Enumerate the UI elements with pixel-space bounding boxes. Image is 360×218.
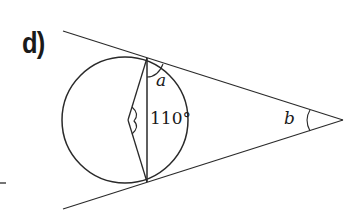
angle-b-label: b (284, 108, 295, 128)
given-angle-label: 110° (150, 108, 191, 128)
inscribed-side-upper (128, 58, 147, 120)
inscribed-side-lower (128, 120, 147, 182)
angle-b-arc (307, 110, 310, 131)
lower-tangent-line (63, 120, 343, 209)
upper-tangent-line (63, 31, 343, 120)
part-label: d) (22, 26, 44, 60)
angle-a-label: a (156, 70, 166, 90)
inscribed-angle-arc (132, 107, 137, 134)
geometry-figure: d) a 110° b (0, 0, 360, 218)
